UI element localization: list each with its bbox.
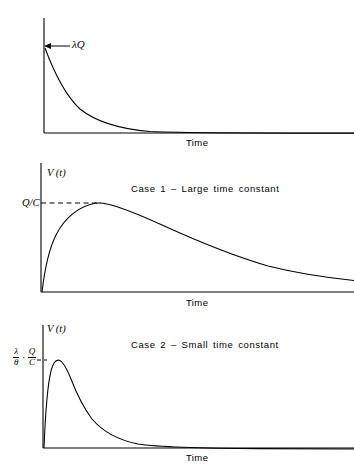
panel-3-curve-voltage-small-tau bbox=[44, 360, 354, 449]
panel-3-fraction-numerator-lambda: λ bbox=[13, 347, 19, 357]
panel-3-fraction-denominator-c: C bbox=[28, 357, 36, 368]
panel-1-annotation-lambda-q: λQ bbox=[72, 39, 85, 50]
panel-3-fraction-q-c: Q C bbox=[28, 347, 37, 367]
panel-1-plot bbox=[0, 0, 354, 155]
panel-3-fraction-multiply-dot: · bbox=[19, 353, 27, 363]
panel-1-annotation-q: Q bbox=[77, 38, 85, 50]
panel-2-title: Case 1 – Large time constant bbox=[131, 184, 279, 194]
chart-panel-case-1-large-time-constant bbox=[0, 155, 354, 315]
panel-3-y-axis-label: V (t) bbox=[47, 324, 66, 335]
panel-2-y-tick-label-qc: Q/C bbox=[22, 198, 40, 209]
panel-1-x-axis-label: Time bbox=[186, 138, 208, 148]
figure-three-panel-pmt-response: Rate of electron collection at PM anode … bbox=[0, 0, 354, 470]
panel-2-y-axis-label: V (t) bbox=[47, 168, 66, 179]
panel-2-x-axis-label: Time bbox=[186, 298, 208, 308]
panel-1-curve-exponential-decay bbox=[45, 48, 354, 133]
panel-2-curve-voltage-large-tau bbox=[42, 203, 354, 292]
panel-3-title: Case 2 – Small time constant bbox=[131, 340, 279, 350]
chart-panel-rate-of-electron-collection: Rate of electron collection at PM anode … bbox=[0, 0, 354, 155]
panel-3-fraction-numerator-q: Q bbox=[28, 347, 37, 357]
panel-3-x-axis-label: Time bbox=[186, 453, 208, 463]
panel-3-y-tick-label-fraction: λ θ · Q C bbox=[13, 347, 36, 367]
panel-2-plot bbox=[0, 155, 354, 315]
